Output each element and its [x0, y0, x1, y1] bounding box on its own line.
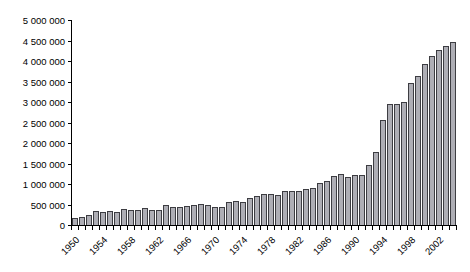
- bar-1981: [290, 192, 295, 226]
- bar-1979: [276, 195, 281, 225]
- y-axis-tick-label: 0: [60, 220, 65, 231]
- bar-1986: [325, 181, 330, 225]
- bar-1992: [367, 166, 372, 226]
- bar-1995: [388, 105, 393, 226]
- bar-1968: [199, 204, 204, 225]
- bar-1983: [304, 189, 309, 225]
- y-axis-tick-label: 2 500 000: [23, 118, 65, 129]
- x-axis-tick-label: 1966: [171, 234, 194, 257]
- bar-1984: [311, 188, 316, 225]
- bar-1965: [178, 207, 183, 225]
- x-axis-tick-label: 1994: [367, 234, 390, 257]
- y-axis-tick-label: 3 500 000: [23, 77, 65, 88]
- y-axis-tick-label: 1 000 000: [23, 179, 65, 190]
- x-axis-tick-label: 1970: [199, 234, 222, 257]
- bar-chart-figure: 0500 0001 000 0001 500 0002 000 0002 500…: [0, 0, 470, 272]
- bar-1956: [115, 213, 120, 226]
- bar-1994: [381, 121, 386, 226]
- bar-1976: [255, 197, 260, 226]
- bar-1974: [241, 203, 246, 226]
- bar-1961: [150, 210, 155, 225]
- bar-2004: [451, 42, 456, 225]
- bar-1989: [346, 177, 351, 225]
- bar-2003: [444, 46, 449, 225]
- x-axis-tick-label: 1974: [227, 234, 250, 257]
- bar-1964: [171, 207, 176, 225]
- bar-1998: [409, 84, 414, 226]
- bar-1972: [227, 202, 232, 225]
- y-axis-tick-label: 1 500 000: [23, 159, 65, 170]
- bar-1954: [101, 213, 106, 226]
- x-axis-tick-label: 1990: [339, 234, 362, 257]
- bar-1955: [108, 212, 113, 226]
- bar-1958: [129, 211, 134, 226]
- bar-1962: [157, 211, 162, 226]
- bar-1960: [143, 208, 148, 225]
- bar-1980: [283, 191, 288, 225]
- bar-1951: [80, 217, 85, 225]
- bar-2000: [423, 64, 428, 225]
- bar-1978: [269, 195, 274, 226]
- y-axis-tick-label: 4 000 000: [23, 56, 65, 67]
- bar-1973: [234, 202, 239, 226]
- y-axis-tick-label: 5 000 000: [23, 15, 65, 26]
- bar-1996: [395, 105, 400, 226]
- x-axis-tick-label: 1962: [143, 234, 166, 257]
- bar-1990: [353, 175, 358, 225]
- bar-1970: [213, 207, 218, 225]
- bar-2001: [430, 56, 435, 225]
- bar-1993: [374, 153, 379, 226]
- bar-1967: [192, 205, 197, 225]
- bar-1991: [360, 176, 365, 226]
- bar-1952: [87, 215, 92, 225]
- x-axis-tick-label: 1986: [311, 234, 334, 257]
- y-axis-tick-label: 500 000: [31, 200, 65, 211]
- bar-1997: [402, 102, 407, 225]
- x-axis-tick-label: 1950: [59, 234, 82, 257]
- bar-2002: [437, 50, 442, 225]
- bar-1969: [206, 205, 211, 225]
- x-axis-tick-label: 2002: [423, 234, 446, 257]
- bar-chart: 0500 0001 000 0001 500 0002 000 0002 500…: [0, 0, 470, 272]
- bar-1950: [73, 219, 78, 226]
- x-axis-tick-label: 1954: [87, 234, 110, 257]
- bar-1953: [94, 212, 99, 226]
- bar-1957: [122, 209, 127, 225]
- bar-1985: [318, 183, 323, 225]
- bar-1982: [297, 192, 302, 226]
- y-axis-tick-label: 3 000 000: [23, 97, 65, 108]
- bar-1987: [332, 177, 337, 226]
- x-axis-tick-label: 1982: [283, 234, 306, 257]
- bar-1999: [416, 77, 421, 226]
- bar-1988: [339, 174, 344, 225]
- bar-1977: [262, 194, 267, 225]
- x-axis-tick-label: 1958: [115, 234, 138, 257]
- x-axis-tick-label: 1998: [395, 234, 418, 257]
- y-axis-tick-label: 2 000 000: [23, 138, 65, 149]
- bar-1959: [136, 211, 141, 226]
- y-axis-tick-label: 4 500 000: [23, 36, 65, 47]
- bar-1971: [220, 207, 225, 225]
- x-axis-tick-label: 1978: [255, 234, 278, 257]
- bar-1975: [248, 198, 253, 225]
- bar-1963: [164, 205, 169, 225]
- bar-1966: [185, 206, 190, 225]
